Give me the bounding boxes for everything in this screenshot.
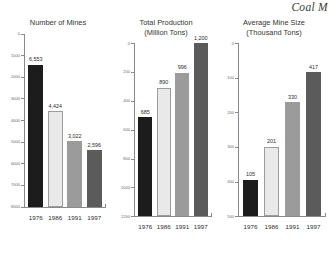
- x-axis-line: [134, 216, 212, 217]
- x-axis-line: [24, 207, 106, 208]
- y-tick-label: 300: [218, 145, 234, 149]
- y-tick-label: 6000: [2, 162, 20, 166]
- chart-title-line2: (Thousand Tons): [218, 28, 330, 38]
- chart-panel-average-mine-size: Average Mine Size (Thousand Tons) 010020…: [218, 18, 330, 231]
- bar-slot[interactable]: 201: [261, 43, 282, 216]
- x-axis-label: 1991: [65, 213, 85, 222]
- y-tick-label: 8000: [2, 205, 20, 209]
- y-tick: [21, 34, 24, 35]
- y-axis-line: [134, 43, 135, 217]
- bar-1997[interactable]: [194, 43, 208, 216]
- bar-slot[interactable]: 996: [173, 43, 192, 216]
- bar-slot[interactable]: 105: [240, 43, 261, 216]
- bar-1991[interactable]: [67, 141, 82, 206]
- figure-page: Coal M Number of Mines 01000200030004000…: [0, 0, 330, 269]
- bar-value-label: 996: [173, 65, 192, 70]
- bar-value-label: 3,022: [65, 134, 85, 139]
- y-tick: [131, 101, 134, 102]
- y-tick: [21, 207, 24, 208]
- y-tick-label: 1000: [2, 54, 20, 58]
- y-tick: [131, 216, 134, 217]
- y-tick-label: 400: [218, 180, 234, 184]
- bar-1986[interactable]: [157, 88, 171, 216]
- chart-title: Number of Mines: [2, 18, 114, 28]
- x-axis-label: 1986: [261, 222, 282, 231]
- bar-slot[interactable]: 890: [155, 43, 174, 216]
- bar-slot[interactable]: 2,596: [85, 34, 105, 207]
- y-tick: [21, 120, 24, 121]
- x-axis-label: 1991: [282, 222, 303, 231]
- y-tick-label: 400: [114, 99, 130, 103]
- bar-1976[interactable]: [138, 117, 152, 216]
- bar-slot[interactable]: 417: [303, 43, 324, 216]
- bar-slot[interactable]: 3,022: [65, 34, 85, 207]
- x-axis-line: [238, 216, 326, 217]
- bar-1997[interactable]: [306, 72, 322, 216]
- y-tick-label: 500: [218, 215, 234, 219]
- x-axis-labels: 1976198619911997: [26, 213, 104, 222]
- bar-slot[interactable]: 4,424: [46, 34, 66, 207]
- bar-1986[interactable]: [264, 147, 280, 217]
- bar-value-label: 890: [155, 80, 174, 85]
- bar-value-label: 330: [282, 95, 303, 100]
- x-axis-labels: 1976198619911997: [240, 222, 324, 231]
- chart-panel-number-of-mines: Number of Mines 010002000300040005000600…: [0, 18, 114, 222]
- y-tick: [235, 43, 238, 44]
- y-axis-line: [24, 34, 25, 208]
- x-axis-label: 1976: [240, 222, 261, 231]
- bar-value-label: 685: [136, 110, 155, 115]
- bar-1986[interactable]: [48, 111, 63, 207]
- y-tick: [21, 185, 24, 186]
- y-tick-label: 7000: [2, 183, 20, 187]
- y-tick-label: 1000: [114, 186, 130, 190]
- x-axis-label: 1986: [46, 213, 66, 222]
- y-tick: [131, 72, 134, 73]
- bar-1997[interactable]: [87, 150, 102, 206]
- x-axis-label: 1991: [173, 222, 192, 231]
- bar-1976[interactable]: [28, 65, 43, 207]
- x-axis-end-tick: [105, 204, 106, 208]
- y-tick-label: 200: [114, 70, 130, 74]
- y-tick: [21, 142, 24, 143]
- bar-value-label: 6,553: [26, 57, 46, 62]
- bar-group: 105201330417: [240, 43, 324, 216]
- x-axis-label: 1997: [85, 213, 105, 222]
- y-tick-label: 800: [114, 157, 130, 161]
- bar-slot[interactable]: 330: [282, 43, 303, 216]
- y-tick: [131, 159, 134, 160]
- bar-slot[interactable]: 1,200: [192, 43, 211, 216]
- x-axis-end-tick: [325, 213, 326, 217]
- bar-slot[interactable]: 6,553: [26, 34, 46, 207]
- y-tick: [131, 187, 134, 188]
- bar-1991[interactable]: [175, 73, 189, 217]
- bar-1991[interactable]: [285, 102, 301, 216]
- bar-slot[interactable]: 685: [136, 43, 155, 216]
- bar-value-label: 201: [261, 139, 282, 144]
- y-tick-label: 0: [114, 42, 130, 46]
- x-axis-label: 1997: [303, 222, 324, 231]
- x-axis-label: 1976: [136, 222, 155, 231]
- y-tick-label: 4000: [2, 119, 20, 123]
- y-tick-label: 3000: [2, 97, 20, 101]
- y-tick-label: 1200: [114, 215, 130, 219]
- bar-1976[interactable]: [243, 180, 259, 216]
- y-tick: [21, 77, 24, 78]
- chart-title: Average Mine Size (Thousand Tons): [218, 18, 330, 37]
- y-tick: [235, 182, 238, 183]
- x-axis-label: 1997: [192, 222, 211, 231]
- bar-value-label: 417: [303, 65, 324, 70]
- y-tick: [131, 43, 134, 44]
- x-axis-labels: 1976198619911997: [136, 222, 210, 231]
- bar-value-label: 4,424: [46, 104, 66, 109]
- y-tick: [21, 98, 24, 99]
- x-axis-label: 1976: [26, 213, 46, 222]
- x-axis-label: 1986: [155, 222, 174, 231]
- bar-value-label: 1,200: [192, 36, 211, 41]
- chart-panel-total-production: Total Production (Million Tons) 02004006…: [114, 18, 218, 231]
- y-tick: [131, 130, 134, 131]
- y-tick-label: 0: [218, 42, 234, 46]
- bar-value-label: 2,596: [85, 143, 105, 148]
- y-tick-label: 600: [114, 128, 130, 132]
- y-axis-line: [238, 43, 239, 217]
- plot-area: 020040060080010001200 6858909961,200 197…: [114, 43, 218, 231]
